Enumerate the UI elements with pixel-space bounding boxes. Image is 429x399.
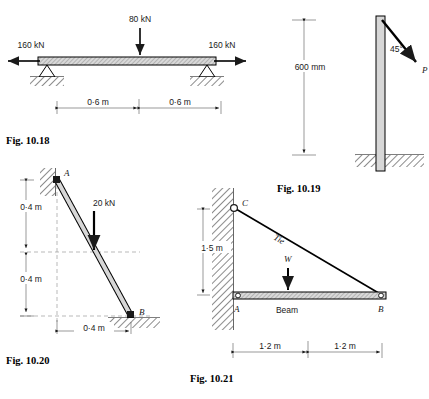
force-p-label: P xyxy=(421,65,428,75)
height-label: 600 mm xyxy=(295,62,326,72)
beam-member xyxy=(38,57,216,65)
dim-vertical-label: 1·5 m xyxy=(201,243,223,253)
angle-label: 45° xyxy=(390,44,403,54)
dim-right-label: 0·6 m xyxy=(169,97,191,107)
wall-hatch xyxy=(40,168,55,196)
dim-right-label-2: 1·2 m xyxy=(334,341,356,351)
tie-member xyxy=(236,209,382,295)
dim-upper-label: 0·4 m xyxy=(20,202,42,212)
dimension-row: 0·6 m 0·6 m xyxy=(57,97,221,114)
fig-10-21: Tie C A B Beam W 1·5 m 1·2 m xyxy=(190,188,386,384)
beam-member-2 xyxy=(233,292,386,299)
left-pin-support xyxy=(30,65,64,86)
dim-left-label: 0·6 m xyxy=(87,97,109,107)
joint-a-2 xyxy=(236,293,241,298)
wall-hatch-2 xyxy=(212,188,233,330)
figure-sheet: 80 kN 160 kN 160 kN 0·6 m xyxy=(0,0,429,399)
joint-b xyxy=(127,311,134,318)
ground-hatch-b xyxy=(108,318,160,328)
fig-10-18-caption: Fig. 10.18 xyxy=(6,135,49,146)
beam-label: Beam xyxy=(276,305,298,315)
left-load-label: 160 kN xyxy=(18,40,45,50)
dim-left-label-2: 1·2 m xyxy=(259,341,281,351)
fig-10-19-caption: Fig. 10.19 xyxy=(277,183,320,194)
node-b-label: B xyxy=(139,307,145,317)
fig-10-18: 80 kN 160 kN 160 kN 0·6 m xyxy=(6,14,246,146)
dim-horizontal-label: 0·4 m xyxy=(83,323,105,333)
strut-load-label: 20 kN xyxy=(93,198,115,208)
joint-c xyxy=(231,205,238,212)
fig-10-19: P 45° 600 mm Fig. 10.19 xyxy=(277,16,428,194)
vertical-dimensions: 0·4 m 0·4 m xyxy=(12,180,50,316)
pole-member xyxy=(376,16,385,171)
fig-10-20: A B 20 kN 0·4 m 0·4 m 0·4 m Fig. 10.20 xyxy=(6,168,160,366)
ground-hatch xyxy=(355,155,424,167)
height-dimension: 600 mm xyxy=(288,20,332,155)
dim-lower-label: 0·4 m xyxy=(20,274,42,284)
force-p-arrow xyxy=(382,20,416,62)
node-c-label: C xyxy=(242,198,249,208)
right-pin-support xyxy=(190,65,224,86)
fig-10-20-caption: Fig. 10.20 xyxy=(6,355,49,366)
node-a-label: A xyxy=(63,168,70,178)
load-w-label: W xyxy=(284,254,293,264)
node-a-label-2: A xyxy=(233,304,240,314)
joint-a xyxy=(53,176,60,183)
joint-b-2 xyxy=(379,293,384,298)
tie-label: Tie xyxy=(272,232,287,246)
right-load-label: 160 kN xyxy=(209,40,236,50)
horizontal-dimensions-2: 1·2 m 1·2 m xyxy=(233,341,382,358)
center-load-label: 80 kN xyxy=(129,14,151,24)
node-b-label-2: B xyxy=(378,304,384,314)
fig-10-21-caption: Fig. 10.21 xyxy=(190,373,233,384)
